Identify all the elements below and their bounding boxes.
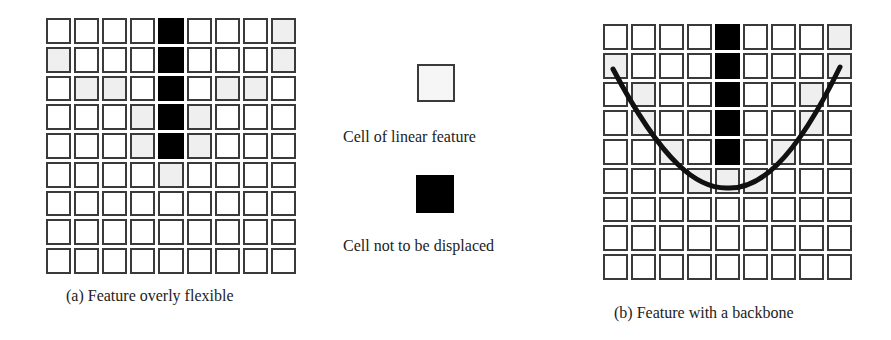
grid-cell <box>187 219 212 245</box>
grid-cell <box>46 219 71 245</box>
grid-cell <box>46 104 71 130</box>
grid-cell <box>158 248 183 274</box>
grid-cell <box>271 76 296 102</box>
grid-cell <box>215 18 240 44</box>
grid-cell <box>130 133 155 159</box>
grid-cell <box>243 133 268 159</box>
grid-cell <box>187 248 212 274</box>
grid-cell <box>130 47 155 73</box>
grid-cell <box>130 248 155 274</box>
caption-b: (b) Feature with a backbone <box>614 304 793 322</box>
grid-cell <box>74 18 99 44</box>
grid-cell <box>130 76 155 102</box>
grid-cell <box>243 104 268 130</box>
grid-cell <box>187 133 212 159</box>
grid-cell <box>187 47 212 73</box>
grid-cell <box>130 104 155 130</box>
grid-cell <box>130 18 155 44</box>
grid-cell <box>102 248 127 274</box>
grid-cell <box>271 104 296 130</box>
grid-cell <box>102 18 127 44</box>
grid-cell <box>102 191 127 217</box>
backbone-curve <box>603 24 852 280</box>
grid-cell <box>46 133 71 159</box>
grid-cell <box>130 162 155 188</box>
grid-cell <box>187 18 212 44</box>
grid-cell <box>271 133 296 159</box>
grid-cell <box>158 162 183 188</box>
legend-label-fixed-cell: Cell not to be displaced <box>343 237 494 255</box>
grid-cell <box>158 219 183 245</box>
grid-cell <box>215 104 240 130</box>
grid-cell <box>215 47 240 73</box>
grid-cell <box>74 219 99 245</box>
legend-label-linear-feature: Cell of linear feature <box>343 128 476 146</box>
grid-cell <box>46 76 71 102</box>
fixed-cell <box>158 104 183 130</box>
fixed-cell <box>158 47 183 73</box>
fixed-cell <box>158 18 183 44</box>
grid-cell <box>271 219 296 245</box>
fixed-cell <box>158 76 183 102</box>
grid-cell <box>46 248 71 274</box>
caption-a: (a) Feature overly flexible <box>66 287 233 305</box>
grid-cell <box>243 162 268 188</box>
legend-swatch-linear-feature <box>417 64 455 102</box>
grid-cell <box>187 162 212 188</box>
grid-cell <box>215 162 240 188</box>
grid-cell <box>46 191 71 217</box>
grid-cell <box>74 162 99 188</box>
grid-cell <box>243 76 268 102</box>
legend-swatch-fixed-cell <box>416 175 454 213</box>
fixed-cell <box>158 133 183 159</box>
grid-cell <box>243 18 268 44</box>
grid-cell <box>271 248 296 274</box>
grid-cell <box>102 162 127 188</box>
grid-cell <box>46 47 71 73</box>
grid-cell <box>187 104 212 130</box>
grid-feature-overly-flexible <box>46 18 296 274</box>
grid-cell <box>271 47 296 73</box>
grid-cell <box>74 133 99 159</box>
grid-cell <box>215 219 240 245</box>
grid-cell <box>215 133 240 159</box>
grid-cell <box>102 219 127 245</box>
grid-cell <box>215 76 240 102</box>
grid-cell <box>74 248 99 274</box>
grid-cell <box>243 219 268 245</box>
grid-cell <box>271 191 296 217</box>
grid-cell <box>130 191 155 217</box>
grid-cell <box>243 47 268 73</box>
grid-cell <box>187 191 212 217</box>
grid-cell <box>74 76 99 102</box>
grid-cell <box>215 248 240 274</box>
grid-cell <box>102 76 127 102</box>
grid-cell <box>102 133 127 159</box>
grid-cell <box>243 248 268 274</box>
grid-cell <box>46 162 71 188</box>
grid-cell <box>74 191 99 217</box>
grid-cell <box>271 18 296 44</box>
grid-cell <box>215 191 240 217</box>
grid-cell <box>74 104 99 130</box>
grid-cell <box>187 76 212 102</box>
grid-cell <box>243 191 268 217</box>
grid-cell <box>102 104 127 130</box>
grid-cell <box>158 191 183 217</box>
grid-cell <box>130 219 155 245</box>
grid-cell <box>271 162 296 188</box>
grid-cell <box>102 47 127 73</box>
grid-cell <box>46 18 71 44</box>
grid-cell <box>74 47 99 73</box>
